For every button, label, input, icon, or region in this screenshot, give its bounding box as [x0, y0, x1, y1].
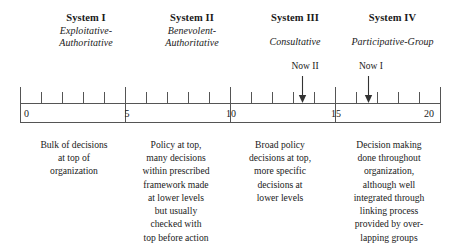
description-system-3-line-1: Broad policy — [228, 138, 332, 151]
now-1-arrow — [365, 76, 372, 103]
now-1-label-text: Now I — [359, 61, 383, 71]
description-system-2-line-7: checked with — [124, 217, 228, 230]
system-heading-1-subtitle-line-1: Exploitative- — [26, 25, 146, 37]
system-heading-2: System II Benevolent- Authoritative — [132, 12, 252, 49]
description-system-2-line-1: Policy at top, — [124, 138, 228, 151]
system-heading-4-subtitle-line-1: Participative-Group — [330, 36, 455, 48]
system-heading-1: System I Exploitative- Authoritative — [26, 12, 146, 49]
axis-label-0: 0 — [24, 109, 29, 119]
description-system-2-line-2: many decisions — [124, 151, 228, 164]
axis-label-5: 5 — [122, 109, 132, 119]
description-system-3-line-4: decisions at — [228, 178, 332, 191]
description-system-3: Broad policy decisions at top, more spec… — [228, 138, 332, 204]
system-heading-4: System IV Participative-Group — [330, 12, 455, 48]
description-system-1-line-3: organization — [20, 164, 128, 177]
description-system-4-line-5: integrated through — [330, 191, 448, 204]
description-system-4-line-8: lapping groups — [330, 231, 448, 244]
description-system-1-line-1: Bulk of decisions — [20, 138, 128, 151]
description-system-1-line-2: at top of — [20, 151, 128, 164]
now-2-label: Now II — [275, 62, 335, 72]
description-system-4-line-7: provided by over- — [330, 217, 448, 230]
system-heading-2-subtitle-line-1: Benevolent- — [132, 25, 252, 37]
axis-label-15: 15 — [329, 109, 343, 119]
description-system-2-line-8: top before action — [124, 231, 228, 244]
description-system-4-line-3: organization, — [330, 164, 448, 177]
likert-system-scale-figure: System I Exploitative- Authoritative Sys… — [0, 0, 461, 249]
description-system-3-line-2: decisions at top, — [228, 151, 332, 164]
description-system-3-line-3: more specific — [228, 164, 332, 177]
system-heading-1-title: System I — [26, 12, 146, 25]
description-system-4-line-4: although well — [330, 178, 448, 191]
description-system-2-line-4: framework made — [124, 178, 228, 191]
system-heading-2-title: System II — [132, 12, 252, 25]
axis-label-20: 20 — [424, 109, 434, 119]
description-system-4: Decision making done throughout organiza… — [330, 138, 448, 244]
now-1-label: Now I — [341, 62, 401, 72]
description-system-1: Bulk of decisions at top of organization — [20, 138, 128, 178]
axis-label-10: 10 — [224, 109, 238, 119]
description-system-2-line-3: within prescribed — [124, 164, 228, 177]
description-system-2-line-5: at lower levels — [124, 191, 228, 204]
description-system-2: Policy at top, many decisions within pre… — [124, 138, 228, 244]
now-2-label-text: Now II — [291, 61, 318, 71]
description-system-2-line-6: but usually — [124, 204, 228, 217]
description-system-3-line-5: lower levels — [228, 191, 332, 204]
description-system-4-line-6: linking process — [330, 204, 448, 217]
system-heading-4-title: System IV — [330, 12, 455, 25]
description-system-4-line-2: done throughout — [330, 151, 448, 164]
description-system-4-line-1: Decision making — [330, 138, 448, 151]
system-heading-2-subtitle-line-2: Authoritative — [132, 37, 252, 49]
system-heading-1-subtitle-line-2: Authoritative — [26, 37, 146, 49]
now-2-arrow — [299, 76, 306, 103]
